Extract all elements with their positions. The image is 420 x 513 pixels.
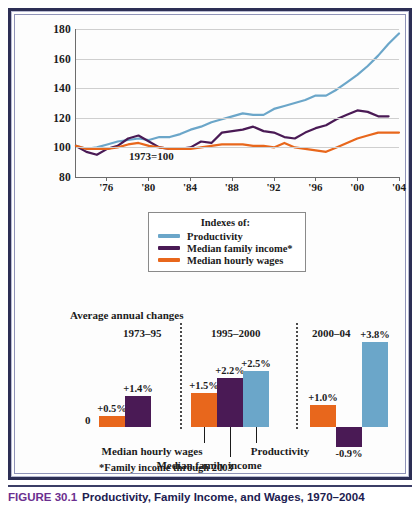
bar-group-header: 1973–95 [123,327,162,339]
y-axis-labels: 80100120140160180 [37,29,71,177]
legend-item: Median hourly wages [158,254,293,266]
gridline [76,147,399,148]
legend-item: Productivity [158,230,293,242]
bar-value-label: -0.9% [335,448,362,459]
x-tick-label: '96 [308,181,322,193]
x-tick-label: '88 [225,181,239,193]
bar [336,427,362,447]
bar [362,342,388,428]
x-tick-label: '80 [141,181,155,193]
bar-value-label: +1.5% [189,380,219,391]
series-leader-line [230,427,231,457]
legend-item-label: Productivity [187,231,243,242]
group-divider [296,323,298,429]
legend-swatch-icon [158,258,180,262]
bar-group-header: 1995–2000 [211,327,261,339]
bar-chart: Average annual changes 1973–951995–20002… [15,301,419,487]
line-chart: 80100120140160180 '76'80'84'88'92'96'00'… [37,29,399,199]
bar [310,405,336,428]
chart-legend: Indexes of: ProductivityMedian family in… [148,212,306,272]
x-tick-label: '76 [99,181,113,193]
line-series-productivity [76,33,399,148]
figure-frame: 80100120140160180 '76'80'84'88'92'96'00'… [8,8,412,480]
bar [191,393,217,427]
group-divider [180,323,182,429]
gridline [76,118,399,119]
bar-series-label: Productivity [251,445,309,457]
bar [125,396,151,428]
line-series-svg [76,29,399,177]
line-plot-area [75,29,399,178]
bar-value-label: +2.5% [241,358,271,369]
bar [217,378,243,428]
figure-number: FIGURE 30.1 [8,491,77,503]
legend-item-label: Median family income* [187,243,293,254]
y-tick-label: 140 [53,82,71,94]
legend-title: Indexes of: [158,217,293,228]
legend-swatch-icon [158,234,180,238]
bar-value-label: +1.4% [123,383,153,394]
y-tick-label: 180 [53,23,71,35]
figure-inner-border: 80100120140160180 '76'80'84'88'92'96'00'… [14,14,406,474]
gridline [76,59,399,60]
x-tick-label: '00 [350,181,364,193]
x-tick-label: '04 [392,181,406,193]
gridline [76,29,399,30]
bar [99,416,125,427]
index-base-annotation: 1973=100 [129,150,174,162]
legend-rows: ProductivityMedian family income*Median … [158,230,293,266]
figure-caption: FIGURE 30.1Productivity, Family Income, … [8,491,412,503]
bar-chart-title: Average annual changes [70,309,183,321]
x-tick-label: '84 [183,181,197,193]
gridline [76,88,399,89]
y-tick-label: 160 [53,53,71,65]
legend-item-label: Median hourly wages [187,255,283,266]
x-tick-label: '92 [267,181,281,193]
bar [243,371,269,427]
y-tick-label: 100 [53,141,71,153]
legend-swatch-icon [158,246,180,250]
bar-value-label: +0.5% [97,403,127,414]
bar-value-label: +3.8% [360,329,390,340]
bar-series-label: Median hourly wages [102,445,203,457]
legend-item: Median family income* [158,242,293,254]
bar-group-header: 2000–04 [312,327,351,339]
y-tick-label: 120 [53,112,71,124]
bar-value-label: +1.0% [308,392,338,403]
series-leader-line [204,427,205,443]
figure-title: Productivity, Family Income, and Wages, … [82,491,365,503]
footnote: *Family income through 2003 [99,462,233,473]
y-tick-label: 80 [59,171,71,183]
zero-baseline-label: 0 [85,414,91,426]
series-leader-line [256,427,257,443]
caption-divider [8,485,412,487]
